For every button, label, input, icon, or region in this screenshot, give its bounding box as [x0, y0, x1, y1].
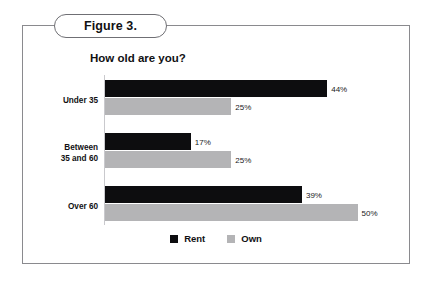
legend-item-own[interactable]: Own	[227, 233, 262, 244]
bar-value-own: 25%	[231, 102, 251, 111]
bar-group: Between 35 and 60 17% 25%	[22, 132, 410, 176]
bar-value-own: 25%	[231, 155, 251, 164]
chart: How old are you? Under 35 44% 25%	[22, 25, 410, 264]
bar-own[interactable]	[105, 151, 231, 168]
bar-value-rent: 17%	[191, 137, 211, 146]
bar-rent[interactable]	[105, 186, 302, 203]
bar-group: Over 60 39% 50%	[22, 185, 410, 229]
chart-title: How old are you?	[90, 52, 186, 64]
bar-value-rent: 44%	[327, 84, 347, 93]
bar-group: Under 35 44% 25%	[22, 79, 410, 123]
legend-item-rent[interactable]: Rent	[170, 233, 205, 244]
bar-rent[interactable]	[105, 80, 327, 97]
bar-value-rent: 39%	[302, 190, 322, 199]
legend-label: Rent	[184, 233, 205, 244]
category-label: Between 35 and 60	[22, 143, 98, 164]
legend-swatch-icon	[227, 235, 235, 243]
category-label: Over 60	[22, 202, 98, 213]
category-label: Under 35	[22, 96, 98, 107]
figure-container: Figure 3. How old are you? Under 35 44% …	[0, 0, 434, 283]
legend-label: Own	[241, 233, 262, 244]
category-label-line: 35 and 60	[22, 154, 98, 165]
bar-own[interactable]	[105, 204, 358, 221]
chart-legend: Rent Own	[22, 233, 410, 244]
bar-own[interactable]	[105, 98, 231, 115]
bar-rent[interactable]	[105, 133, 191, 150]
category-label-line: Under 35	[22, 96, 98, 107]
category-label-line: Over 60	[22, 202, 98, 213]
legend-swatch-icon	[170, 235, 178, 243]
plot-area: Under 35 44% 25% Between 35 and 60	[22, 75, 410, 225]
category-label-line: Between	[22, 143, 98, 154]
bar-value-own: 50%	[358, 208, 378, 217]
